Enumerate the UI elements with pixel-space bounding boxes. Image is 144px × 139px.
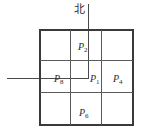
cell-label-p6-subscript: 6 bbox=[85, 112, 89, 120]
cell-label-p1-subscript: 1 bbox=[96, 78, 100, 86]
grid-vertical-divider-2 bbox=[101, 30, 102, 125]
cell-label-p8-subscript: 8 bbox=[60, 78, 64, 86]
cell-label-p4: P4 bbox=[113, 74, 123, 84]
grid-vertical-divider-1 bbox=[70, 30, 71, 125]
grid-horizontal-divider-2 bbox=[40, 92, 133, 93]
cell-label-p1: P1 bbox=[90, 74, 100, 84]
cell-label-p6: P6 bbox=[79, 108, 89, 118]
cell-label-p2: P2 bbox=[78, 42, 88, 52]
grid-horizontal-divider-1 bbox=[40, 60, 133, 61]
grid-diagram: 北 P2 P8 P1 P4 P6 bbox=[0, 0, 144, 139]
north-direction-label: 北 bbox=[70, 3, 88, 16]
cell-label-p4-subscript: 4 bbox=[119, 78, 123, 86]
cell-label-p8: P8 bbox=[54, 74, 64, 84]
cell-label-p2-subscript: 2 bbox=[84, 46, 88, 54]
